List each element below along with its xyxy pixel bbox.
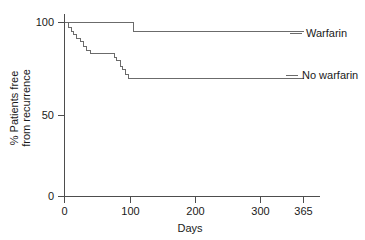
y-axis-title-line1: % Patients free [8, 71, 20, 146]
x-tick-label-100: 100 [121, 205, 139, 217]
y-tick-label-0: 0 [48, 190, 54, 202]
legend-label-warfarin: Warfarin [306, 27, 347, 39]
x-tick-label-0: 0 [61, 205, 67, 217]
x-tick-label-300: 300 [251, 205, 269, 217]
legend-label-no-warfarin: No warfarin [302, 69, 358, 81]
x-tick-label-200: 200 [186, 205, 204, 217]
series-line-warfarin [65, 23, 304, 32]
y-tick-label-100: 100 [36, 16, 54, 28]
kaplan-meier-chart: 100 50 0 0 100 200 300 365 Days % Patien… [0, 0, 365, 240]
y-tick-label-50: 50 [42, 109, 54, 121]
y-axis-title-line2: from recurrence [20, 69, 32, 147]
x-tick-label-365: 365 [294, 205, 312, 217]
x-axis-title: Days [177, 222, 203, 234]
chart-canvas: 100 50 0 0 100 200 300 365 Days % Patien… [0, 0, 365, 240]
